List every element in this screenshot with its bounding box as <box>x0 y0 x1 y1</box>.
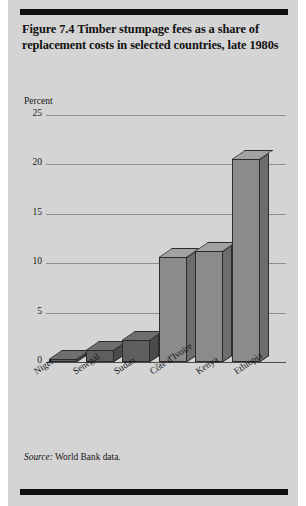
figure-title: Figure 7.4 Timber stumpage fees as a sha… <box>22 22 286 54</box>
bar-series <box>46 108 286 368</box>
bar-front-face <box>232 159 260 362</box>
figure-panel: Figure 7.4 Timber stumpage fees as a sha… <box>8 0 298 506</box>
source-text: World Bank data. <box>55 452 121 462</box>
plot-area: 0510152025 <box>24 108 286 368</box>
source-note: Source: World Bank data. <box>24 452 121 462</box>
bar-kenya <box>195 251 223 362</box>
y-tick-label: 15 <box>24 206 42 217</box>
top-rule <box>20 9 288 15</box>
bar-ethiopia <box>232 159 260 362</box>
y-tick-label: 20 <box>24 156 42 167</box>
y-axis-label: Percent <box>24 95 53 106</box>
bar-side-face <box>260 153 269 362</box>
bar-front-face <box>195 251 223 362</box>
source-prefix: Source: <box>24 452 53 462</box>
y-tick-label: 25 <box>24 107 42 118</box>
y-tick-label: 10 <box>24 255 42 266</box>
x-axis-labels: NigerSenegalSudanCôte d'IvoireKenyaEthio… <box>24 368 290 438</box>
bottom-rule <box>20 489 288 495</box>
y-tick-label: 5 <box>24 305 42 316</box>
